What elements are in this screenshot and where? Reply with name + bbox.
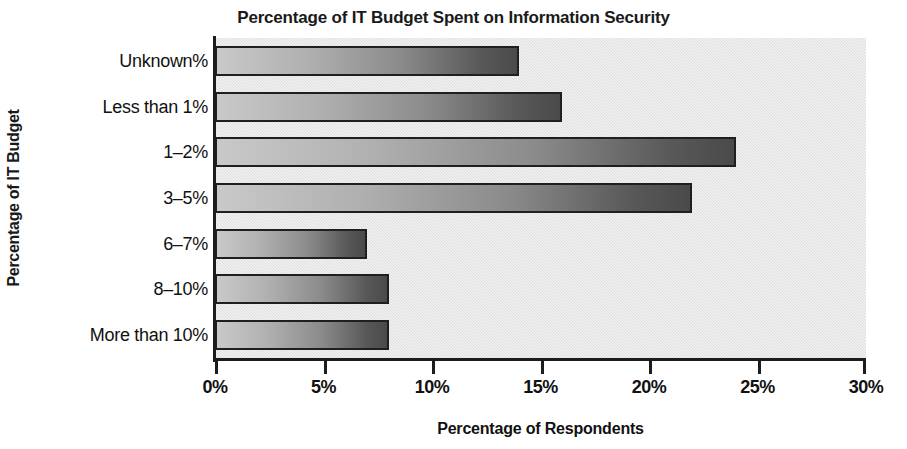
x-axis-tick [215, 361, 218, 374]
x-axis-tick-label: 5% [284, 377, 364, 398]
x-axis-tick [649, 361, 652, 374]
category-label: Less than 1% [30, 92, 208, 122]
bar [215, 137, 736, 167]
category-label: Unknown% [30, 46, 208, 76]
y-axis-title-label: Percentage of IT Budget [3, 38, 25, 358]
category-label: 3–5% [30, 183, 208, 213]
bar [215, 183, 692, 213]
bar [215, 46, 519, 76]
x-axis-tick-label: 0% [175, 377, 255, 398]
x-axis-tick-label: 20% [609, 377, 689, 398]
x-axis-ticks [215, 361, 866, 375]
x-axis-tick [324, 361, 327, 374]
bar [215, 92, 562, 122]
bar [215, 229, 367, 259]
category-label: 1–2% [30, 137, 208, 167]
x-axis-tick-label: 10% [392, 377, 472, 398]
category-label: More than 10% [30, 320, 208, 350]
bar-chart-figure: Percentage of IT Budget Spent on Informa… [0, 0, 907, 449]
bar [215, 320, 389, 350]
plot-area [215, 38, 866, 358]
category-label: 6–7% [30, 229, 208, 259]
x-axis-tick-label: 15% [501, 377, 581, 398]
x-axis-tick-label: 30% [826, 377, 906, 398]
y-axis-category-labels: Unknown%Less than 1%1–2%3–5%6–7%8–10%Mor… [30, 38, 208, 358]
category-label: 8–10% [30, 274, 208, 304]
y-axis-title: Percentage of IT Budget [0, 38, 28, 358]
x-axis-tick-label: 25% [718, 377, 798, 398]
bar [215, 274, 389, 304]
x-axis-tick [758, 361, 761, 374]
x-axis-tick [863, 361, 866, 374]
x-axis-tick [541, 361, 544, 374]
x-axis-tick [432, 361, 435, 374]
chart-title: Percentage of IT Budget Spent on Informa… [0, 8, 907, 28]
x-axis-tick-labels: 0%5%10%15%20%25%30% [0, 377, 907, 401]
x-axis-title: Percentage of Respondents [215, 420, 866, 438]
y-axis-line [213, 36, 216, 362]
